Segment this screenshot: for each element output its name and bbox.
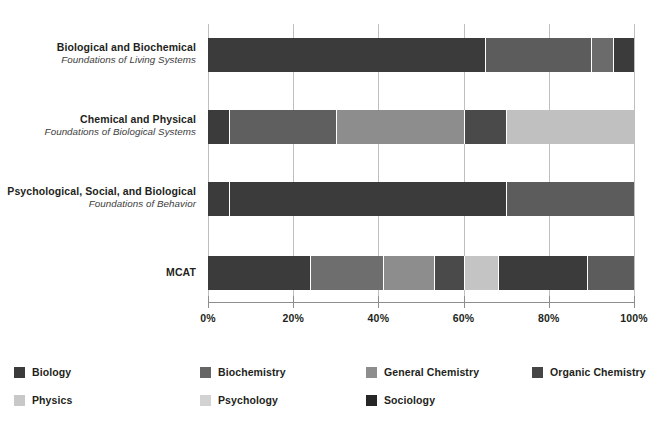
tick-mark-20 bbox=[293, 296, 294, 308]
bar-segment[interactable] bbox=[208, 256, 310, 290]
legend-label: Organic Chemistry bbox=[550, 366, 646, 378]
bar-segment[interactable] bbox=[208, 38, 485, 72]
bar-segment[interactable] bbox=[591, 38, 612, 72]
category-subtitle: Foundations of Behavior bbox=[0, 198, 196, 210]
x-tick-label: 60% bbox=[453, 312, 475, 324]
x-axis-line bbox=[208, 302, 634, 303]
legend-swatch bbox=[200, 395, 211, 406]
legend-label: Sociology bbox=[384, 394, 435, 406]
x-tick-label: 80% bbox=[538, 312, 560, 324]
legend-label: Psychology bbox=[218, 394, 278, 406]
plot-area bbox=[208, 24, 634, 302]
bar-segment[interactable] bbox=[229, 110, 336, 144]
bar-segment[interactable] bbox=[464, 110, 507, 144]
bar-segment[interactable] bbox=[506, 110, 634, 144]
legend-swatch bbox=[14, 395, 25, 406]
category-subtitle: Foundations of Living Systems bbox=[0, 54, 196, 66]
category-label: MCAT bbox=[0, 266, 196, 279]
tick-mark-60 bbox=[464, 296, 465, 308]
x-tick-label: 40% bbox=[368, 312, 390, 324]
tick-mark-80 bbox=[549, 296, 550, 308]
bar-row bbox=[208, 38, 634, 72]
legend-label: General Chemistry bbox=[384, 366, 479, 378]
x-tick-label: 100% bbox=[620, 312, 648, 324]
category-title: Biological and Biochemical bbox=[0, 41, 196, 54]
category-title: Psychological, Social, and Biological bbox=[0, 185, 196, 198]
x-tick-label: 20% bbox=[282, 312, 304, 324]
bar-segment[interactable] bbox=[208, 182, 229, 216]
x-tick-label: 0% bbox=[200, 312, 216, 324]
legend-item-biology[interactable]: Biology bbox=[14, 366, 71, 378]
stacked-bar[interactable] bbox=[208, 256, 634, 290]
bar-row bbox=[208, 256, 634, 290]
bar-segment[interactable] bbox=[498, 256, 587, 290]
legend-label: Biology bbox=[32, 366, 71, 378]
category-label: Chemical and PhysicalFoundations of Biol… bbox=[0, 113, 196, 138]
bar-segment[interactable] bbox=[336, 110, 464, 144]
bar-segment[interactable] bbox=[506, 182, 634, 216]
legend-item-general-chemistry[interactable]: General Chemistry bbox=[366, 366, 479, 378]
gridline-100 bbox=[634, 24, 635, 302]
stacked-bar-chart: 0%20%40%60%80%100% Biological and Bioche… bbox=[0, 0, 662, 437]
legend-swatch bbox=[14, 367, 25, 378]
bar-segment[interactable] bbox=[310, 256, 382, 290]
bar-segment[interactable] bbox=[613, 38, 634, 72]
legend-item-organic-chemistry[interactable]: Organic Chemistry bbox=[532, 366, 646, 378]
bar-segment[interactable] bbox=[229, 182, 506, 216]
legend-label: Physics bbox=[32, 394, 72, 406]
category-label: Biological and BiochemicalFoundations of… bbox=[0, 41, 196, 66]
legend-item-sociology[interactable]: Sociology bbox=[366, 394, 435, 406]
bar-segment[interactable] bbox=[383, 256, 434, 290]
stacked-bar[interactable] bbox=[208, 38, 634, 72]
chart-legend: BiologyBiochemistryGeneral ChemistryOrga… bbox=[14, 366, 648, 426]
category-subtitle: Foundations of Biological Systems bbox=[0, 126, 196, 138]
legend-swatch bbox=[366, 395, 377, 406]
legend-item-psychology[interactable]: Psychology bbox=[200, 394, 278, 406]
category-title: Chemical and Physical bbox=[0, 113, 196, 126]
category-label: Psychological, Social, and BiologicalFou… bbox=[0, 185, 196, 210]
bar-row bbox=[208, 110, 634, 144]
tick-mark-100 bbox=[634, 296, 635, 308]
legend-item-biochemistry[interactable]: Biochemistry bbox=[200, 366, 286, 378]
tick-mark-40 bbox=[378, 296, 379, 308]
bar-row bbox=[208, 182, 634, 216]
bar-segment[interactable] bbox=[464, 256, 498, 290]
stacked-bar[interactable] bbox=[208, 182, 634, 216]
bar-segment[interactable] bbox=[587, 256, 634, 290]
bar-segment[interactable] bbox=[208, 110, 229, 144]
legend-swatch bbox=[200, 367, 211, 378]
legend-swatch bbox=[366, 367, 377, 378]
legend-swatch bbox=[532, 367, 543, 378]
category-title: MCAT bbox=[0, 266, 196, 279]
stacked-bar[interactable] bbox=[208, 110, 634, 144]
tick-mark-0 bbox=[208, 296, 209, 308]
bar-segment[interactable] bbox=[485, 38, 592, 72]
bar-segment[interactable] bbox=[434, 256, 464, 290]
legend-item-physics[interactable]: Physics bbox=[14, 394, 72, 406]
legend-label: Biochemistry bbox=[218, 366, 286, 378]
